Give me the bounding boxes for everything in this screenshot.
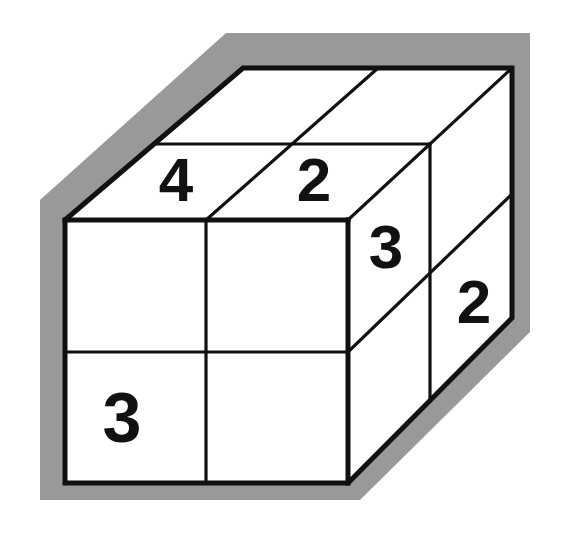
label-front-bottom-left: 3: [103, 379, 142, 457]
label-right-top-back: 2: [457, 267, 491, 336]
cube-diagram: 4 2 3 2 3: [0, 0, 579, 545]
label-top-front-left: 4: [159, 145, 194, 214]
label-right-top-front: 3: [369, 212, 403, 281]
label-top-front-right: 2: [297, 145, 331, 214]
figure-canvas: 4 2 3 2 3: [0, 0, 579, 545]
